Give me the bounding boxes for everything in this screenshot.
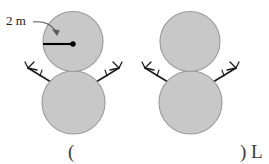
- right-snowman-right-arm-twig: [213, 62, 239, 82]
- left-snowman: [25, 12, 122, 135]
- caption-right-label: ) L: [240, 141, 263, 163]
- right-snowman-left-arm-twig: [142, 62, 168, 82]
- right-snowman-body-ball: [159, 71, 222, 134]
- right-snowman-head-ball: [160, 12, 220, 72]
- center-dot: [70, 41, 75, 46]
- right-snowman: [142, 12, 239, 135]
- left-snowman-right-arm-twig: [96, 62, 122, 82]
- snowman-diagram: 2 m ( ) L: [0, 0, 269, 164]
- caption-left-paren: (: [68, 141, 74, 163]
- left-snowman-body-ball: [42, 71, 105, 134]
- dimension-label: 2 m: [6, 13, 26, 28]
- left-snowman-left-arm-twig: [25, 62, 51, 82]
